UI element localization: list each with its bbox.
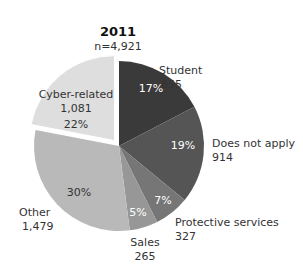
label-protective-services-value: 327	[175, 230, 196, 244]
label-does-not-apply-value: 914	[212, 151, 233, 165]
label-cyber-related-value: 1,081	[36, 102, 116, 116]
pct-sales: 5%	[129, 206, 146, 219]
label-other-name: Other	[19, 206, 50, 220]
pct-cyber-related: 22%	[64, 118, 88, 131]
label-protective-services-name: Protective services	[175, 216, 279, 230]
label-does-not-apply-name: Does not apply	[212, 137, 295, 151]
label-other-value: 1,479	[22, 220, 54, 234]
label-student-name: Student	[159, 64, 202, 78]
pct-does-not-apply: 19%	[171, 139, 195, 152]
chart-subtitle: n=4,921	[0, 40, 236, 53]
label-sales-value: 265	[130, 250, 160, 264]
pct-student: 17%	[139, 82, 163, 95]
label-student-value: 855	[161, 78, 182, 92]
label-cyber-related-name: Cyber-related	[36, 88, 116, 102]
pct-other: 30%	[67, 186, 91, 199]
pct-protective-services: 7%	[154, 194, 171, 207]
label-sales-name: Sales	[130, 236, 160, 250]
chart-title: 2011	[0, 24, 236, 39]
